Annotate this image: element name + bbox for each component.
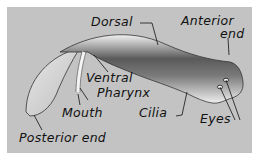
label-dorsal: Dorsal bbox=[91, 16, 133, 29]
label-pharynx: Pharynx bbox=[97, 87, 150, 100]
label-cilia: Cilia bbox=[139, 107, 167, 120]
label-anterior-line2: end bbox=[220, 28, 244, 41]
label-mouth: Mouth bbox=[62, 107, 103, 120]
label-eyes: Eyes bbox=[200, 113, 231, 126]
label-posterior-end: Posterior end bbox=[19, 132, 106, 145]
worm-body bbox=[60, 35, 243, 103]
label-ventral: Ventral bbox=[86, 72, 133, 85]
pharynx-tube bbox=[78, 52, 84, 92]
